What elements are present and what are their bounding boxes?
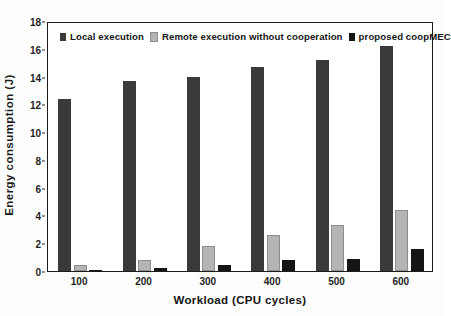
y-tick-label: 8	[35, 155, 41, 166]
y-axis-title-text: Energy consumption (J)	[3, 74, 15, 216]
bar	[316, 60, 329, 271]
x-axis-title: Workload (CPU cycles)	[47, 294, 433, 306]
bar	[331, 225, 344, 271]
bar	[202, 246, 215, 271]
y-tick-label: 14	[30, 72, 41, 83]
y-tick-mark	[42, 105, 45, 106]
y-tick-mark	[42, 216, 45, 217]
y-tick-label: 2	[35, 239, 41, 250]
y-tick-label: 6	[35, 183, 41, 194]
y-axis-tick-labels: 024681012141618	[18, 22, 45, 272]
y-tick-mark	[42, 22, 45, 23]
bar	[411, 249, 424, 271]
bar-group	[316, 23, 360, 271]
bar	[267, 235, 280, 271]
y-tick-mark	[42, 77, 45, 78]
bar	[154, 268, 167, 271]
y-tick-mark	[42, 160, 45, 161]
y-tick-mark	[42, 272, 45, 273]
bar-group	[380, 23, 424, 271]
x-tick-label: 100	[71, 276, 88, 287]
bar-group	[58, 23, 102, 271]
x-axis-tick-labels: 100200300400500600	[47, 276, 433, 292]
bar	[347, 259, 360, 272]
y-tick-mark	[42, 244, 45, 245]
bar	[282, 260, 295, 271]
bar-group	[187, 23, 231, 271]
y-tick-mark	[42, 49, 45, 50]
bars-layer	[48, 23, 432, 271]
y-tick-label: 12	[30, 100, 41, 111]
bar	[187, 77, 200, 271]
bar	[123, 81, 136, 271]
bar	[58, 99, 71, 271]
y-tick-mark	[42, 133, 45, 134]
y-tick-mark	[42, 188, 45, 189]
y-tick-label: 0	[35, 267, 41, 278]
x-tick-label: 200	[135, 276, 152, 287]
bar	[395, 210, 408, 271]
bar	[218, 265, 231, 271]
y-tick-label: 16	[30, 44, 41, 55]
bar-group	[123, 23, 167, 271]
bar	[74, 265, 87, 271]
y-tick-label: 10	[30, 128, 41, 139]
x-tick-label: 500	[328, 276, 345, 287]
x-tick-label: 300	[199, 276, 216, 287]
bar	[89, 270, 102, 272]
bar	[251, 67, 264, 271]
bar	[138, 260, 151, 271]
y-tick-label: 18	[30, 17, 41, 28]
x-tick-label: 400	[264, 276, 281, 287]
bar	[380, 46, 393, 271]
bar-group	[251, 23, 295, 271]
plot-area: Local executionRemote execution without …	[47, 22, 433, 272]
y-axis-title: Energy consumption (J)	[0, 0, 18, 290]
x-tick-label: 600	[392, 276, 409, 287]
y-tick-label: 4	[35, 211, 41, 222]
